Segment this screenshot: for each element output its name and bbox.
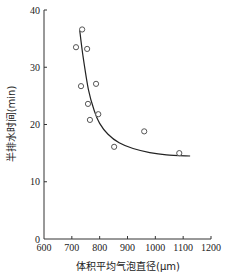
axes: 600700800900100011001200010203040 [30, 5, 221, 254]
y-tick-label: 0 [35, 234, 40, 245]
x-tick-label: 1200 [201, 242, 221, 253]
x-axis-title: 体积平均气泡直径(μm) [76, 260, 180, 272]
y-tick-label: 40 [30, 5, 40, 16]
data-point-marker [177, 151, 182, 156]
x-tick-label: 1000 [145, 242, 165, 253]
data-point-marker [87, 117, 92, 122]
data-point-marker [142, 129, 147, 134]
y-tick-label: 20 [30, 119, 40, 130]
fit-curve [80, 29, 190, 156]
x-tick-label: 1100 [173, 242, 193, 253]
data-point-marker [85, 101, 90, 106]
data-point-marker [93, 81, 98, 86]
data-point-marker [112, 144, 117, 149]
x-tick-label: 800 [92, 242, 107, 253]
x-tick-label: 900 [120, 242, 135, 253]
data-points [73, 27, 181, 156]
y-axis-title: 半排水时间(min) [5, 86, 17, 163]
y-tick-label: 10 [30, 176, 40, 187]
chart: 600700800900100011001200010203040 半排水时间(… [0, 0, 233, 277]
data-point-marker [85, 46, 90, 51]
y-tick-label: 30 [30, 62, 40, 73]
data-point-marker [96, 112, 101, 117]
x-tick-label: 700 [64, 242, 79, 253]
data-point-marker [78, 84, 83, 89]
fit-curve-path [80, 29, 190, 156]
data-point-marker [73, 45, 78, 50]
data-point-marker [80, 27, 85, 32]
